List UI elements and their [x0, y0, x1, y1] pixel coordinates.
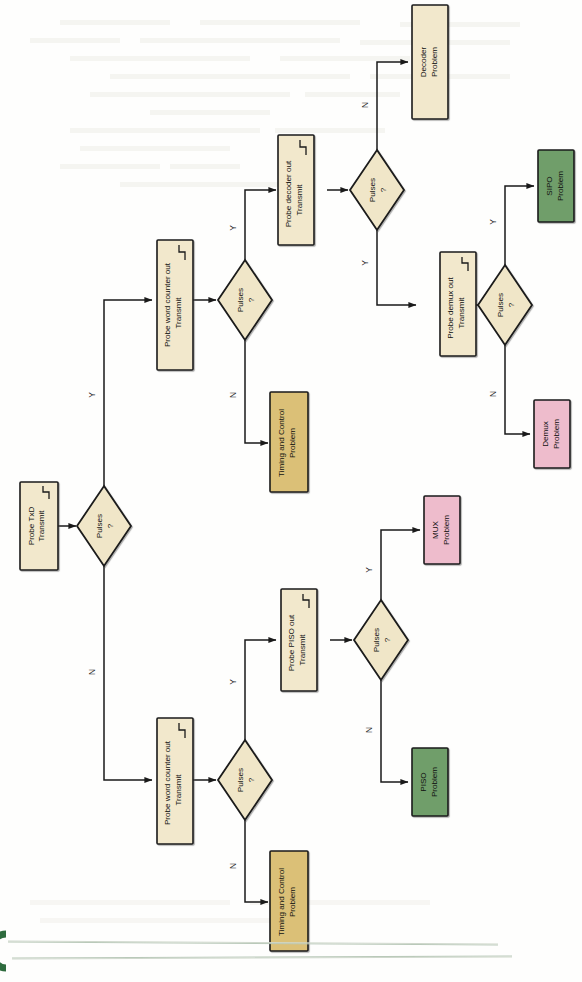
node-timing-control-problem-top[interactable]: Timing and Control Problem [270, 392, 308, 492]
node-probe-word-counter-top[interactable]: Probe word counter out Transmit [157, 240, 193, 370]
edge-label-wc-top-yes: Y [228, 225, 238, 231]
node-decision-decoder[interactable]: Pulses ? [350, 150, 404, 230]
node-demux-problem-line2: Problem [552, 419, 561, 449]
edge-label-wc-bot-yes: Y [228, 679, 238, 685]
edge-txd-yes [104, 300, 152, 486]
node-decoder-problem-line2: Problem [430, 47, 439, 77]
edge-label-decoder-no: N [360, 102, 370, 108]
node-decision-word-counter-bottom[interactable]: Pulses ? [218, 740, 272, 820]
edge-label-demux-no: N [488, 391, 498, 397]
node-probe-demux-line1: Probe demux out [446, 276, 455, 338]
page-footer-decoration [0, 934, 512, 968]
node-decision-txd-line2: ? [106, 523, 115, 528]
node-probe-txd-line1: Probe TxD [27, 507, 36, 546]
node-decision-word-counter-top[interactable]: Pulses ? [218, 260, 272, 340]
edge-txd-no [104, 566, 152, 780]
node-decision-demux[interactable]: Pulses ? [478, 265, 532, 345]
node-decision-piso-line2: ? [383, 637, 392, 642]
node-probe-txd[interactable]: Probe TxD Transmit [20, 482, 58, 570]
node-mux-problem[interactable]: MUX Problem [424, 496, 460, 564]
node-mux-problem-line2: Problem [442, 515, 451, 545]
node-timing-control-problem-bottom[interactable]: Timing and Control Problem [270, 851, 308, 951]
flowchart-canvas: Y N Y N N Y Y N Y N Y N Probe TxD Transm… [0, 0, 582, 982]
node-decision-wc-top-line1: Pulses [236, 288, 245, 312]
node-decision-demux-line1: Pulses [496, 293, 505, 317]
edge-piso-yes [381, 530, 420, 600]
edge-demux-no [505, 345, 530, 434]
node-sipo-problem-line1: SIPO [545, 176, 554, 195]
edge-demux-yes [505, 186, 534, 265]
node-timing-top-line2: Problem [288, 428, 297, 458]
node-decision-piso-line1: Pulses [372, 628, 381, 652]
node-probe-decoder-line1: Probe decoder out [284, 160, 293, 227]
node-decision-wc-bot-line1: Pulses [236, 768, 245, 792]
edge-wc-bot-yes [245, 640, 276, 740]
node-decoder-problem-line1: Decoder [419, 46, 428, 77]
edge-label-txd-no: N [87, 669, 97, 675]
node-piso-problem-line2: Problem [430, 767, 439, 797]
page-canvas: Y N Y N N Y Y N Y N Y N Probe TxD Transm… [0, 0, 582, 982]
node-timing-bot-line1: Timing and Control [277, 868, 286, 936]
node-timing-top-line1: Timing and Control [277, 409, 286, 477]
node-probe-decoder-out[interactable]: Probe decoder out Transmit [278, 135, 314, 245]
node-probe-wc-top-line1: Probe word counter out [163, 262, 172, 347]
node-decision-piso[interactable]: Pulses ? [354, 600, 408, 680]
edge-piso-no [381, 680, 408, 782]
node-decision-wc-bot-line2: ? [247, 777, 256, 782]
edge-wc-top-no [245, 340, 268, 443]
node-decoder-problem[interactable]: Decoder Problem [412, 5, 448, 119]
node-probe-wc-bot-line1: Probe word counter out [163, 740, 172, 825]
node-decision-txd[interactable]: Pulses ? [77, 486, 131, 566]
node-probe-word-counter-bottom[interactable]: Probe word counter out Transmit [157, 718, 193, 844]
edge-wc-top-yes [245, 190, 276, 260]
node-probe-wc-top-line2: Transmit [174, 297, 183, 329]
node-piso-problem[interactable]: PISO Problem [412, 748, 448, 816]
node-decision-decoder-line2: ? [379, 187, 388, 192]
node-probe-piso-line1: Probe PISO out [287, 614, 296, 671]
node-decision-demux-line2: ? [507, 302, 516, 307]
node-demux-problem-line1: Demux [541, 421, 550, 447]
edge-label-txd-yes: Y [87, 392, 97, 398]
node-decision-wc-top-line2: ? [247, 297, 256, 302]
node-timing-bot-line2: Problem [288, 887, 297, 917]
node-decision-decoder-line1: Pulses [368, 178, 377, 202]
node-probe-txd-line2: Transmit [37, 510, 46, 542]
node-probe-wc-bot-line2: Transmit [174, 774, 183, 806]
edge-label-demux-yes: Y [488, 219, 498, 225]
footer-circle-glyph [0, 934, 6, 968]
node-decision-txd-line1: Pulses [95, 514, 104, 538]
edge-wc-bot-no [245, 820, 268, 902]
node-probe-piso-out[interactable]: Probe PISO out Transmit [281, 589, 317, 691]
node-demux-problem[interactable]: Demux Problem [534, 400, 570, 468]
node-mux-problem-line1: MUX [431, 520, 440, 539]
edge-decoder-yes [377, 230, 416, 305]
node-probe-demux-out[interactable]: Probe demux out Transmit [440, 252, 476, 356]
node-probe-demux-line2: Transmit [457, 297, 466, 329]
edge-label-decoder-yes: Y [360, 260, 370, 266]
node-piso-problem-line1: PISO [419, 772, 428, 791]
edge-label-wc-bot-no: N [228, 863, 238, 869]
edge-label-wc-top-no: N [228, 392, 238, 398]
node-sipo-problem[interactable]: SIPO Problem [538, 150, 574, 222]
edge-label-piso-no: N [364, 727, 374, 733]
node-probe-piso-line2: Transmit [298, 634, 307, 666]
edge-label-piso-yes: Y [364, 567, 374, 573]
node-probe-decoder-line2: Transmit [295, 184, 304, 216]
node-sipo-problem-line2: Problem [556, 171, 565, 201]
